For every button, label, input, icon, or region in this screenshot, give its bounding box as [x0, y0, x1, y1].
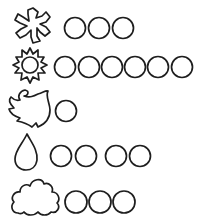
sun-icon	[13, 48, 47, 83]
row-wind	[9, 90, 77, 127]
count-circles	[56, 101, 77, 122]
wind-leaf-icon	[9, 90, 50, 127]
snowflake-icon	[15, 8, 50, 43]
count-circles	[55, 57, 193, 78]
row-raindrop	[15, 134, 151, 170]
count-circles	[65, 191, 135, 213]
cloud-icon	[12, 180, 59, 215]
count-circles	[65, 18, 134, 39]
row-snowflake	[15, 8, 134, 43]
row-sun	[13, 48, 193, 83]
count-circles	[51, 146, 151, 167]
raindrop-icon	[15, 134, 37, 170]
weather-count-worksheet	[0, 0, 197, 217]
row-cloud	[12, 180, 135, 215]
